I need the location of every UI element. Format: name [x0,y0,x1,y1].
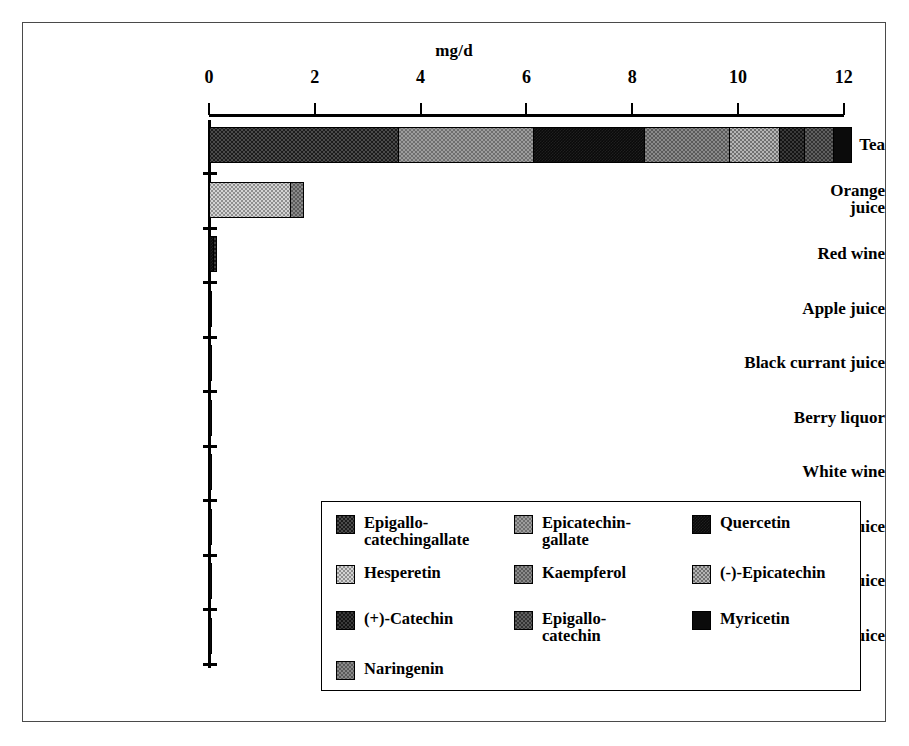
stacked-bar [209,127,852,163]
legend-swatch-icon [514,565,533,584]
bar-segment [780,127,805,163]
stacked-bar [209,509,212,545]
bar-segment [291,182,304,218]
legend-item[interactable]: Myricetin [692,610,790,630]
y-tick-mark [203,227,217,230]
bar-segment [209,454,212,490]
legend-swatch-icon [692,611,711,630]
category-label: Black currant juice [713,354,885,372]
bar-segment [209,509,212,545]
x-tick-label: 2 [310,67,319,88]
y-tick-mark [203,281,217,284]
legend-item[interactable]: (+)-Catechin [336,610,453,630]
legend-item[interactable]: Naringenin [336,660,444,680]
legend-label: (-)-Epicatechin [720,564,825,581]
legend-swatch-icon [336,661,355,680]
stacked-bar [209,236,217,272]
legend-swatch-icon [514,515,533,534]
legend-swatch-icon [336,611,355,630]
y-tick-mark [203,663,217,666]
legend-label: Epicatechin- gallate [542,514,631,549]
axis-title: mg/d [23,41,885,61]
y-tick-mark [203,390,217,393]
chart-figure: mg/d 024681012 TeaOrange juiceRed wineAp… [22,22,886,722]
bar-segment [214,236,217,272]
y-tick-mark [203,554,217,557]
y-tick-mark [203,608,217,611]
category-label: Apple juice [713,300,885,318]
bar-segment [209,345,212,381]
bar-segment [730,127,780,163]
x-tick-label: 6 [522,67,531,88]
x-axis-line [209,114,844,117]
legend-label: Epigallo- catechin [542,610,606,645]
y-tick-mark [203,499,217,502]
stacked-bar [209,345,212,381]
bar-segment [534,127,645,163]
legend-item[interactable]: Epicatechin- gallate [514,514,631,549]
bar-segment [209,400,212,436]
legend-label: Quercetin [720,514,790,531]
x-tick-label: 10 [729,67,747,88]
legend-item[interactable]: Hesperetin [336,564,441,584]
legend-swatch-icon [692,565,711,584]
legend-label: Kaempferol [542,564,626,581]
legend-label: Epigallo- catechingallate [364,514,469,549]
legend-swatch-icon [336,515,355,534]
legend-label: Myricetin [720,610,790,627]
x-tick-label: 12 [835,67,853,88]
bar-segment [834,127,851,163]
stacked-bar [209,182,304,218]
stacked-bar [209,454,212,490]
bar-segment [209,618,212,654]
bar-segment [645,127,730,163]
y-tick-mark [203,172,217,175]
category-label: Berry liquor [713,409,885,427]
bar-segment [209,563,212,599]
legend-item[interactable]: Epigallo- catechingallate [336,514,469,549]
bar-segment [209,182,291,218]
legend-item[interactable]: Kaempferol [514,564,626,584]
stacked-bar [209,291,212,327]
legend-label: Hesperetin [364,564,441,581]
bar-segment [399,127,534,163]
legend-box: Epigallo- catechingallateEpicatechin- ga… [321,501,861,691]
stacked-bar [209,400,212,436]
legend-item[interactable]: Quercetin [692,514,790,534]
y-tick-mark [203,336,217,339]
legend-label: (+)-Catechin [364,610,453,627]
bar-segment [209,127,399,163]
x-tick-label: 8 [628,67,637,88]
bar-segment [805,127,834,163]
category-label: Orange juice [713,182,885,218]
legend-swatch-icon [336,565,355,584]
category-label: White wine [713,463,885,481]
legend-item[interactable]: (-)-Epicatechin [692,564,825,584]
bar-segment [211,291,212,327]
x-tick-label: 0 [205,67,214,88]
stacked-bar [209,563,212,599]
y-tick-mark [203,445,217,448]
x-tick-label: 4 [416,67,425,88]
category-label: Red wine [713,245,885,263]
legend-swatch-icon [514,611,533,630]
stacked-bar [209,618,212,654]
legend-item[interactable]: Epigallo- catechin [514,610,606,645]
legend-label: Naringenin [364,660,444,677]
legend-swatch-icon [692,515,711,534]
